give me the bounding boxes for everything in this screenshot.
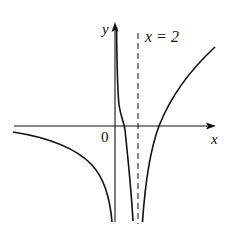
function-graph: y x = 2 0 x [0, 0, 233, 226]
x-axis-label: x [210, 131, 218, 147]
y-axis-label: y [100, 21, 109, 37]
origin-label: 0 [101, 129, 109, 145]
curve-right-branch [143, 47, 216, 222]
asymptote-label: x = 2 [144, 28, 179, 45]
asymptote-label-text: x = 2 [144, 28, 179, 45]
curve-middle-branch [117, 27, 134, 221]
curve-left-branch [13, 132, 112, 222]
